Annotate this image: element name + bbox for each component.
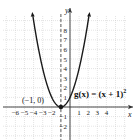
y-tick-label: 8 xyxy=(64,27,68,35)
parabola-graph: −6−5−4−3−21234−2−112345678 y x (−1, 0) g… xyxy=(0,0,138,140)
y-tick-label: 6 xyxy=(64,46,68,54)
x-tick-label: −3 xyxy=(39,109,47,117)
y-tick-label: 5 xyxy=(64,56,68,64)
x-tick-label: 1 xyxy=(77,109,81,117)
y-tick-label: 2 xyxy=(64,84,68,92)
y-tick-label: −1 xyxy=(60,113,68,121)
x-tick-label: 3 xyxy=(96,109,100,117)
x-axis-label: x xyxy=(127,110,132,119)
x-tick-label: 4 xyxy=(105,109,109,117)
equation-text: g(x) = (x + 1) xyxy=(74,89,123,99)
x-tick-label: 2 xyxy=(86,109,90,117)
y-axis-label: y xyxy=(64,6,69,15)
vertex-point xyxy=(59,105,64,110)
equation-label: g(x) = (x + 1)2 xyxy=(74,88,126,99)
tick-labels: −6−5−4−3−21234−2−112345678 xyxy=(12,27,109,131)
y-tick-label: 4 xyxy=(64,65,68,73)
x-tick-label: −4 xyxy=(30,109,38,117)
axes xyxy=(3,8,133,140)
x-tick-label: −6 xyxy=(12,109,20,117)
y-tick-label: 1 xyxy=(64,94,68,102)
y-tick-label: 7 xyxy=(64,36,68,44)
vertex-label: (−1, 0) xyxy=(22,96,44,105)
x-tick-label: −5 xyxy=(21,109,29,117)
y-tick-label: −2 xyxy=(60,123,68,131)
y-tick-label: 3 xyxy=(64,75,68,83)
equation-exponent: 2 xyxy=(123,88,126,94)
x-tick-label: −2 xyxy=(48,109,56,117)
